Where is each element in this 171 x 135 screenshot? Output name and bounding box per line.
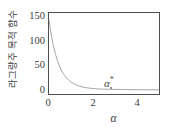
x-tick-label: 0 [40,97,56,108]
alpha-star-annotation: α* [104,74,114,89]
y-tick-label: 100 [19,36,45,46]
y-tick-label: 50 [19,60,45,70]
chart-figure: 라그랑주 목적 함수 150 100 50 0 α* 0 2 4 α [0,0,171,135]
x-axis-label: α [0,112,171,124]
alpha-star-superscript: * [110,75,114,84]
x-axis-tick-labels: 0 2 4 [0,97,171,110]
y-tick-label: 150 [19,11,45,21]
x-tick-label: 2 [85,97,101,108]
alpha-star-marker-dot [110,87,112,89]
x-tick-label: 4 [129,97,145,108]
y-tick-label: 0 [19,85,45,95]
